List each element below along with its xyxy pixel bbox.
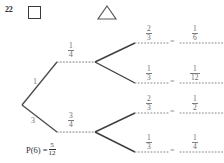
branch-2-equals: = — [170, 77, 175, 86]
final-answer-fraction: 512 — [49, 142, 56, 158]
branch-2-outcome: 1 12 — [190, 65, 200, 82]
branch-4-outcome: 1 4 — [192, 134, 198, 151]
stage2-upper-fraction: 1 4 — [68, 42, 74, 59]
final-answer: P(6) =512 — [26, 142, 56, 158]
stage2-lower-fraction: 3 4 — [68, 112, 74, 129]
branch-2-probability: 1 3 — [146, 65, 152, 82]
branch-1-probability: 2 3 — [146, 25, 152, 42]
final-answer-prefix: P(6) = — [26, 145, 48, 155]
branch-4-equals: = — [170, 146, 175, 155]
stage1-upper-label: 1 — [33, 77, 37, 86]
branch-3-equals: = — [170, 107, 175, 116]
branch-1-equals: = — [170, 37, 175, 46]
branch-1-outcome: 1 6 — [192, 25, 198, 42]
branch-3-outcome: 1 2 — [192, 95, 198, 112]
worksheet-page: 22 1 3 1 4 3 4 — [0, 0, 224, 163]
branch-4-probability: 1 3 — [146, 134, 152, 151]
branch-3-probability: 2 3 — [146, 95, 152, 112]
stage1-lower-label: 3 — [31, 116, 35, 125]
